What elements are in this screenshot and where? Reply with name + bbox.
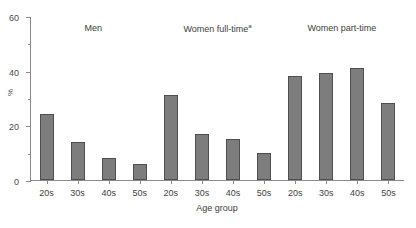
x-tick-label: 30s [186,188,217,198]
bar[interactable] [133,164,147,180]
x-tick [140,180,141,184]
y-axis-title: % [6,89,15,96]
x-tick-label: 50s [124,188,155,198]
x-tick [388,180,389,184]
bar-slot[interactable]: 50s [373,17,404,180]
bar-slot[interactable]: 40s [342,17,373,180]
x-tick-label: 40s [342,188,373,198]
bar[interactable] [40,114,54,180]
y-tick-label-0: 0 [14,177,19,187]
x-tick [326,180,327,184]
x-tick [47,180,48,184]
bar-slot[interactable]: 20s [155,17,186,180]
bar-group: Men20s30s40s50s [31,17,155,180]
bar-slot[interactable]: 30s [186,17,217,180]
x-tick-label: 20s [280,188,311,198]
x-tick [171,180,172,184]
bar[interactable] [381,103,395,180]
bar[interactable] [350,68,364,180]
x-tick [109,180,110,184]
x-tick [202,180,203,184]
y-tick-label-40: 40 [9,68,19,78]
bar-groups: Men20s30s40s50sWomen full-timea20s30s40s… [31,17,404,180]
bar[interactable] [195,134,209,180]
x-tick [233,180,234,184]
bar-slot[interactable]: 30s [311,17,342,180]
x-tick-label: 50s [373,188,404,198]
x-tick-label: 30s [311,188,342,198]
bar[interactable] [319,73,333,180]
y-tick-label-20: 20 [9,122,19,132]
x-tick-label: 50s [249,188,280,198]
bar-slot[interactable]: 40s [217,17,248,180]
bar[interactable] [257,153,271,180]
y-tick-0: 0 [26,181,31,182]
bar-slot[interactable]: 20s [280,17,311,180]
bar-slot[interactable]: 40s [93,17,124,180]
bar-group: Women full-timea20s30s40s50s [155,17,279,180]
plot-area: 0 20 40 60 Men20s30s40s50sWomen full-tim… [30,17,404,181]
x-tick [357,180,358,184]
bar-slot[interactable]: 50s [249,17,280,180]
x-tick [78,180,79,184]
bar-chart: % 0 20 40 60 Men20s30s40s50sWomen full-t… [0,0,416,228]
x-tick-label: 40s [217,188,248,198]
x-tick-label: 30s [62,188,93,198]
x-axis-title: Age group [30,203,404,213]
bar[interactable] [288,76,302,180]
x-tick [264,180,265,184]
x-tick-label: 20s [155,188,186,198]
bar-slot[interactable]: 20s [31,17,62,180]
bar-group: Women part-time20s30s40s50s [280,17,404,180]
bar[interactable] [71,142,85,180]
bar-slot[interactable]: 50s [124,17,155,180]
x-tick-label: 40s [93,188,124,198]
bar[interactable] [164,95,178,180]
bar-slot[interactable]: 30s [62,17,93,180]
y-tick-label-60: 60 [9,13,19,23]
bar[interactable] [226,139,240,180]
x-tick-label: 20s [31,188,62,198]
bar[interactable] [102,158,116,180]
x-tick [295,180,296,184]
